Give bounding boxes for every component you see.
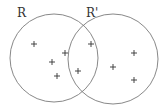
circle-r-prime (68, 14, 158, 104)
points-group (31, 41, 137, 83)
plus-marker-icon (62, 50, 68, 56)
set-label-r-prime: R' (86, 7, 98, 19)
set-label-r: R (17, 7, 26, 19)
plus-marker-icon (54, 73, 60, 79)
plus-marker-icon (49, 59, 55, 65)
circles-group (10, 14, 158, 104)
plus-marker-icon (131, 50, 137, 56)
plus-marker-icon (31, 41, 37, 47)
plus-marker-icon (88, 41, 94, 47)
plus-marker-icon (110, 64, 116, 70)
plus-marker-icon (131, 77, 137, 83)
plus-marker-icon (75, 68, 81, 74)
circle-r (10, 14, 98, 102)
